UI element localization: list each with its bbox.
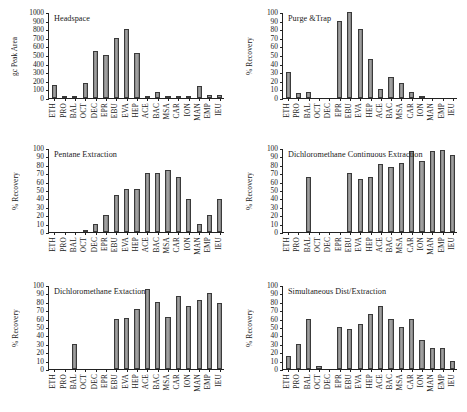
x-tick-mark <box>65 98 66 101</box>
x-tick-mark <box>288 232 289 235</box>
y-tick-label: 60 <box>271 179 278 186</box>
x-tick-label: ION <box>184 237 191 251</box>
x-tick-mark <box>422 232 423 235</box>
plot-area <box>48 13 224 99</box>
x-tick-label: BAL <box>70 374 77 389</box>
bar <box>114 195 119 232</box>
x-tick-mark <box>422 98 423 101</box>
bar-series <box>49 286 224 369</box>
x-tick-mark <box>127 369 128 372</box>
x-tick-label: ACE <box>376 237 383 252</box>
x-axis-tick-labels: ETHPROBALOCTDECEPREBUEVAHEPACEBACMSACARI… <box>48 103 224 133</box>
bar <box>337 327 342 369</box>
bar <box>399 83 404 98</box>
x-tick-label: MSA <box>396 103 403 119</box>
y-tick-label: 10 <box>271 358 278 365</box>
bar <box>83 83 88 98</box>
x-tick-mark <box>340 232 341 235</box>
y-tick-label: 60 <box>271 316 278 323</box>
bar <box>103 215 108 232</box>
x-tick-label: OCT <box>80 374 87 389</box>
x-tick-mark <box>412 98 413 101</box>
y-tick-label: 80 <box>271 299 278 306</box>
plot-area <box>282 149 457 233</box>
x-tick-label: BAL <box>304 103 311 118</box>
x-tick-mark <box>137 369 138 372</box>
x-tick-mark <box>432 98 433 101</box>
y-axis-tick-labels: 01002003004005006007008009001000 <box>20 13 46 99</box>
x-tick-mark <box>391 369 392 372</box>
chart-title: Simultaneous Dist/Extraction <box>288 287 386 296</box>
chart-panel: % Recovery0102030405060708090100ETHPROBA… <box>0 272 234 412</box>
bar-series <box>283 149 457 232</box>
y-tick-label: 0 <box>274 366 278 373</box>
bar <box>450 361 455 369</box>
bar <box>134 189 139 232</box>
x-tick-label: PRO <box>60 237 67 252</box>
bar <box>165 170 170 232</box>
bar <box>358 29 363 98</box>
y-tick-label: 90 <box>37 154 44 161</box>
x-tick-label: MAN <box>194 237 201 255</box>
x-tick-mark <box>412 369 413 372</box>
chart-title: Purge &Trap <box>288 14 331 23</box>
bar <box>186 306 191 369</box>
y-tick-label: 100 <box>33 282 44 289</box>
x-tick-mark <box>288 369 289 372</box>
bar <box>358 324 363 369</box>
y-tick-label: 90 <box>271 18 278 25</box>
x-tick-label: EBU <box>111 103 118 118</box>
bar <box>368 314 373 369</box>
x-tick-label: CAR <box>173 103 180 119</box>
x-tick-label: OCT <box>80 237 87 252</box>
x-tick-mark <box>199 232 200 235</box>
x-tick-label: BAL <box>70 237 77 252</box>
x-tick-label: BAC <box>153 237 160 253</box>
x-tick-label: HEP <box>132 374 139 388</box>
chart-panel: % Recovery0102030405060708090100ETHPROBA… <box>234 137 467 272</box>
y-tick-label: 0 <box>274 95 278 102</box>
y-tick-label: 20 <box>37 349 44 356</box>
x-tick-mark <box>158 98 159 101</box>
x-tick-label: DEC <box>91 237 98 252</box>
x-tick-label: OCT <box>314 103 321 118</box>
y-tick-label: 50 <box>37 324 44 331</box>
x-tick-label: CAR <box>407 374 414 390</box>
x-tick-label: MAN <box>427 237 434 255</box>
bar <box>217 303 222 369</box>
x-tick-mark <box>391 232 392 235</box>
x-tick-label: ETH <box>49 374 56 389</box>
x-tick-mark <box>96 232 97 235</box>
x-axis-tick-labels: ETHPROBALOCTDECEPREBUEVAHEPACEBACMSACARI… <box>282 237 457 267</box>
x-tick-label: CAR <box>407 103 414 119</box>
x-tick-mark <box>319 232 320 235</box>
x-tick-label: DEC <box>91 374 98 389</box>
x-tick-mark <box>106 98 107 101</box>
y-tick-label: 900 <box>33 18 44 25</box>
y-tick-label: 200 <box>33 78 44 85</box>
x-tick-label: ETH <box>49 103 56 118</box>
y-tick-label: 20 <box>37 212 44 219</box>
chart-title: Headspace <box>54 14 90 23</box>
x-tick-label: EBU <box>345 237 352 252</box>
x-tick-mark <box>401 232 402 235</box>
bar-series <box>283 13 457 98</box>
y-tick-label: 600 <box>33 44 44 51</box>
bar <box>337 21 342 98</box>
y-tick-label: 800 <box>33 26 44 33</box>
bar <box>296 344 301 369</box>
bar <box>197 86 202 98</box>
y-tick-label: 90 <box>271 154 278 161</box>
x-tick-mark <box>137 232 138 235</box>
bar <box>378 89 383 98</box>
x-tick-label: MSA <box>163 237 170 253</box>
x-tick-label: EMP <box>438 374 445 390</box>
y-tick-label: 20 <box>271 349 278 356</box>
x-tick-mark <box>298 98 299 101</box>
x-tick-mark <box>329 232 330 235</box>
x-tick-label: EPR <box>101 374 108 388</box>
x-tick-mark <box>453 98 454 101</box>
x-tick-mark <box>116 369 117 372</box>
x-tick-mark <box>381 232 382 235</box>
x-tick-mark <box>116 232 117 235</box>
